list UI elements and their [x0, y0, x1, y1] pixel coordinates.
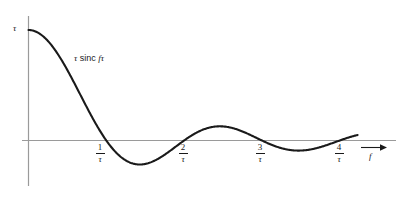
x-tick-1-numerator: 1 — [89, 143, 111, 152]
x-tick-1-denominator: τ — [89, 155, 111, 164]
x-tick-label-4-over-tau: 4 τ — [328, 143, 350, 165]
x-tick-label-2-over-tau: 2 τ — [172, 143, 194, 165]
y-axis-peak-label: τ — [13, 24, 16, 33]
curve-annotation-sinc: sinc — [77, 53, 98, 63]
x-tick-label-3-over-tau: 3 τ — [249, 143, 271, 165]
x-tick-2-denominator: τ — [172, 155, 194, 164]
curve-annotation-label: τ sinc fτ — [74, 54, 104, 63]
figure-background — [0, 0, 410, 197]
x-tick-3-denominator: τ — [249, 155, 271, 164]
x-axis-variable-label: f — [369, 152, 372, 161]
x-tick-4-numerator: 4 — [328, 143, 350, 152]
x-tick-4-denominator: τ — [328, 155, 350, 164]
x-tick-3-numerator: 3 — [249, 143, 271, 152]
sinc-plot-figure — [0, 0, 410, 197]
curve-annotation-tau2: τ — [101, 53, 104, 63]
x-tick-2-numerator: 2 — [172, 143, 194, 152]
x-tick-label-1-over-tau: 1 τ — [89, 143, 111, 165]
